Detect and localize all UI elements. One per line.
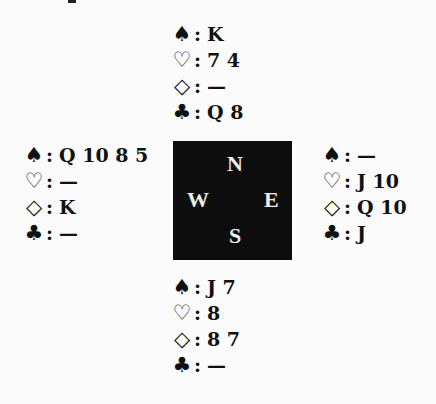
spade-icon: ♠: [322, 142, 342, 168]
spade-icon: ♠: [24, 142, 44, 168]
east-spades: ♠:—: [322, 142, 407, 168]
heart-icon: ♡: [172, 47, 192, 73]
club-icon: ♣: [172, 352, 192, 378]
diamond-icon: ◇: [24, 194, 44, 220]
west-hand: ♠:Q 10 8 5 ♡:— ◇:K ♣:—: [24, 142, 148, 246]
diamond-icon: ◇: [172, 326, 192, 352]
west-clubs: ♣:—: [24, 220, 148, 246]
north-hearts: ♡:7 4: [172, 47, 243, 73]
spade-icon: ♠: [172, 21, 192, 47]
south-clubs: ♣:—: [172, 352, 240, 378]
compass-box: N W E S: [173, 141, 292, 260]
north-clubs: ♣:Q 8: [172, 99, 243, 125]
club-icon: ♣: [172, 99, 192, 125]
diamond-icon: ◇: [172, 73, 192, 99]
compass-east-label: E: [264, 187, 279, 213]
spade-icon: ♠: [172, 274, 192, 300]
west-diamonds: ◇:K: [24, 194, 148, 220]
east-hand: ♠:— ♡:J 10 ◇:Q 10 ♣:J: [322, 142, 407, 246]
west-spades: ♠:Q 10 8 5: [24, 142, 148, 168]
compass-south-label: S: [229, 223, 241, 249]
east-diamonds: ◇:Q 10: [322, 194, 407, 220]
west-hearts: ♡:—: [24, 168, 148, 194]
diamond-icon: ◇: [322, 194, 342, 220]
south-spades: ♠:J 7: [172, 274, 240, 300]
compass-north-label: N: [227, 151, 243, 177]
north-spades: ♠:K: [172, 21, 243, 47]
heart-icon: ♡: [24, 168, 44, 194]
compass-west-label: W: [187, 187, 209, 213]
east-clubs: ♣:J: [322, 220, 407, 246]
cropped-text-fragment: [68, 0, 76, 3]
heart-icon: ♡: [322, 168, 342, 194]
north-hand: ♠:K ♡:7 4 ◇:— ♣:Q 8: [172, 21, 243, 125]
south-hand: ♠:J 7 ♡:8 ◇:8 7 ♣:—: [172, 274, 240, 378]
club-icon: ♣: [322, 220, 342, 246]
east-hearts: ♡:J 10: [322, 168, 407, 194]
south-hearts: ♡:8: [172, 300, 240, 326]
heart-icon: ♡: [172, 300, 192, 326]
north-diamonds: ◇:—: [172, 73, 243, 99]
club-icon: ♣: [24, 220, 44, 246]
south-diamonds: ◇:8 7: [172, 326, 240, 352]
